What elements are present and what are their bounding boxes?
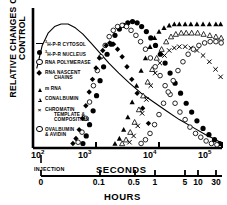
injection-label: INJECTION (34, 166, 65, 172)
legend-marker-filled-triangle-icon (34, 85, 45, 94)
series-m-rna (112, 21, 223, 145)
legend-marker-open-triangle-icon (34, 95, 45, 104)
hours-tick-label: 30 (211, 177, 220, 187)
hours-tick-label: 0.1 (93, 177, 105, 187)
legend-marker-open-circle-icon (34, 125, 45, 134)
legend-marker-dash-icon (34, 38, 45, 47)
seconds-axis-title: SECONDS (96, 164, 146, 175)
legend-label: RNA POLYMERASE (45, 58, 91, 65)
seconds-tick-label: 105 (198, 148, 211, 160)
legend-label: OVALBUMIN& AVIDIN (45, 125, 74, 137)
legend-item: OVALBUMIN& AVIDIN (34, 125, 104, 137)
legend-item: CONALBUMIN (34, 95, 104, 104)
hours-tick-label: 5 (183, 177, 188, 187)
legend-item: m RNA (34, 85, 104, 94)
legend: 3H-P-R CYTOSOL 3H-P-R NUCLEUS RNA POLYME… (34, 38, 104, 138)
seconds-tick-label: 103 (78, 148, 91, 160)
legend-label: 3H-P-R NUCLEUS (45, 48, 86, 56)
legend-label: 3H-P-R CYTOSOL (45, 38, 86, 46)
hours-axis-title: HOURS (104, 191, 141, 202)
hours-tick-label: 1 (153, 177, 158, 187)
series-chromatin-template-composition (127, 44, 223, 144)
hours-tick-label: 0 (39, 177, 44, 187)
legend-label: m RNA (45, 85, 61, 92)
legend-marker-filled-circle-icon (34, 48, 45, 57)
legend-label: RNA NASCENTCHAINS (45, 69, 81, 81)
legend-item: × CHROMATINTEMPLATE &COMPOSITION (34, 105, 104, 124)
seconds-tick-label: 104 (143, 148, 156, 160)
legend-item: RNA NASCENTCHAINS (34, 69, 104, 83)
legend-marker-filled-diamond-icon (34, 69, 45, 78)
legend-marker-open-circle-icon (34, 58, 45, 67)
legend-item: 3H-P-R NUCLEUS (34, 48, 104, 57)
legend-label: CHROMATINTEMPLATE &COMPOSITION (45, 105, 89, 122)
legend-item: RNA POLYMERASE (34, 58, 104, 67)
legend-item: 3H-P-R CYTOSOL (34, 38, 104, 47)
legend-label: CONALBUMIN (45, 95, 79, 102)
figure-panel: RELATIVE CHANGES OVER CONTROL 3H-P-R CYT… (0, 0, 227, 205)
legend-marker-x-icon: × (34, 105, 45, 115)
hours-tick-label: 0.5 (128, 177, 140, 187)
seconds-tick-label: 102 (31, 148, 44, 160)
hours-tick-label: 10 (193, 177, 202, 187)
